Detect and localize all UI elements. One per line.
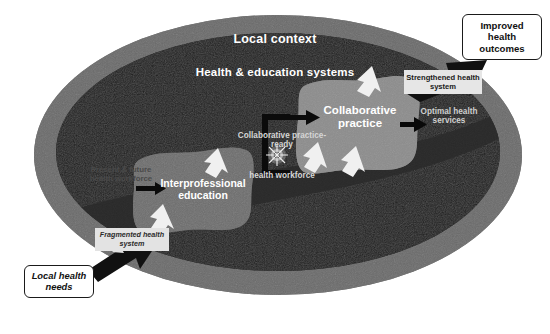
callout-local-health-needs: Local health needs xyxy=(24,265,94,298)
callout-fragmented-health-system: Fragmented health system xyxy=(95,228,169,251)
label-health-workforce: health workforce xyxy=(236,171,328,180)
callout-improved-health-outcomes: Improved health outcomes xyxy=(462,14,542,60)
callout-strengthened-health-system: Strengthened health system xyxy=(404,70,482,94)
blob-label-collaborative-practice: Collaborative practice xyxy=(300,104,420,130)
diagram-canvas: Local context Health & education systems… xyxy=(0,0,550,334)
label-present-future-workforce: Present & future health workforce xyxy=(86,166,156,183)
label-collaborative-practice-ready: Collaborative practice-ready xyxy=(236,131,328,149)
blob-label-interprofessional-education: Interprofessional education xyxy=(140,178,266,202)
label-optimal-health-services: Optimal health services xyxy=(418,107,480,125)
